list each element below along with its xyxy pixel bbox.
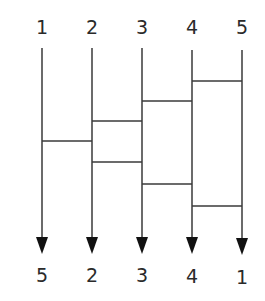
top-label-4: 4: [186, 16, 198, 38]
bottom-label-5: 1: [236, 266, 248, 288]
bottom-label-3: 3: [136, 264, 148, 286]
arrow-down-icon: [36, 237, 48, 254]
bottom-label-2: 2: [86, 264, 98, 286]
top-label-5: 5: [236, 16, 248, 38]
bottom-label-4: 4: [186, 265, 198, 287]
arrow-down-icon: [236, 238, 248, 255]
bottom-label-1: 5: [36, 264, 48, 286]
arrow-down-icon: [136, 237, 148, 254]
ladder-diagram: 1 2 3 4 5 5 2 3 4 1: [0, 0, 265, 301]
top-label-3: 3: [136, 16, 148, 38]
top-label-2: 2: [86, 16, 98, 38]
top-label-1: 1: [36, 16, 48, 38]
arrow-down-icon: [186, 237, 198, 254]
arrow-down-icon: [86, 237, 98, 254]
